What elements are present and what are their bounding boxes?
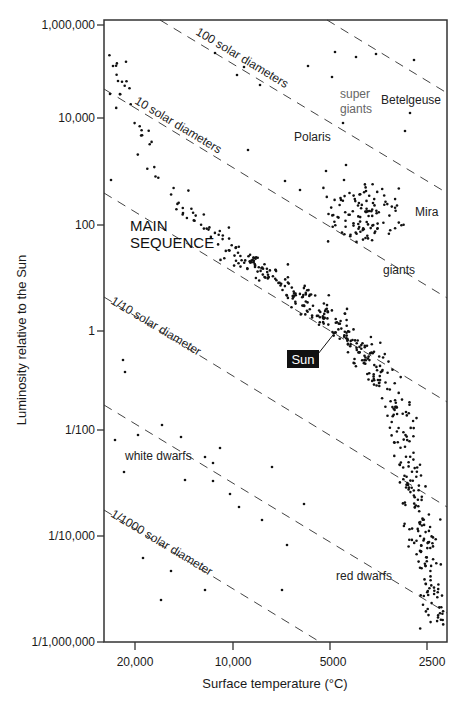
star-point <box>436 591 439 594</box>
star-point <box>336 216 339 219</box>
star-point <box>405 475 408 478</box>
star-point <box>128 87 131 90</box>
star-point <box>394 198 397 201</box>
star-point <box>323 318 326 321</box>
star-point <box>234 247 237 250</box>
star-point <box>140 134 143 137</box>
star-point <box>426 547 429 550</box>
star-point <box>352 210 355 213</box>
star-point <box>355 241 358 244</box>
label-100-solar-diameters: 100 solar diameters <box>193 25 291 91</box>
star-point <box>290 306 293 309</box>
star-point <box>424 565 427 568</box>
star-point <box>383 194 386 197</box>
star-point <box>157 177 160 180</box>
star-point <box>378 382 381 385</box>
star-point <box>407 545 410 548</box>
star-point <box>403 522 406 525</box>
star-point <box>428 513 431 516</box>
star-point <box>186 217 189 220</box>
star-point <box>310 293 313 296</box>
star-point <box>272 275 275 278</box>
star-point <box>384 353 387 356</box>
star-point <box>236 74 239 77</box>
star-point <box>411 470 414 473</box>
star-point <box>347 343 350 346</box>
star-point <box>398 187 401 190</box>
star-point <box>402 502 405 505</box>
star-point <box>230 244 233 247</box>
star-point <box>161 424 164 427</box>
star-point <box>397 441 400 444</box>
star-point <box>323 313 326 316</box>
star-point <box>440 619 443 622</box>
star-point <box>203 213 206 216</box>
star-point <box>271 466 274 469</box>
star-point <box>326 304 329 307</box>
star-point <box>393 382 396 385</box>
star-point <box>381 397 384 400</box>
star-point <box>391 406 394 409</box>
star-point <box>390 421 393 424</box>
star-point <box>146 167 149 170</box>
star-point <box>346 339 349 342</box>
star-point <box>238 245 241 248</box>
star-point <box>390 434 393 437</box>
star-point <box>355 232 358 235</box>
star-point <box>365 221 368 224</box>
star-point <box>400 224 403 227</box>
star-point <box>123 471 126 474</box>
star-point <box>364 346 367 349</box>
label-main: MAIN <box>130 217 168 234</box>
y-tick-1e-6: 1/1,000,000 <box>32 635 96 649</box>
star-point <box>361 342 364 345</box>
star-point <box>394 207 397 210</box>
star-point <box>441 594 444 597</box>
star-point <box>441 613 444 616</box>
star-point <box>384 381 387 384</box>
star-point <box>394 227 397 230</box>
star-point <box>379 341 382 344</box>
star-point <box>404 130 407 133</box>
star-point <box>341 231 344 234</box>
star-point <box>140 129 143 132</box>
star-point <box>415 417 418 420</box>
star-point <box>399 446 402 449</box>
star-point <box>422 539 425 542</box>
star-point <box>418 521 421 524</box>
star-point <box>355 346 358 349</box>
star-point <box>115 107 118 110</box>
star-point <box>204 456 207 459</box>
star-point <box>182 207 185 210</box>
star-point <box>405 411 408 414</box>
star-point <box>325 170 328 173</box>
star-point <box>175 208 178 211</box>
star-point <box>413 467 416 470</box>
star-point <box>406 414 409 417</box>
star-point <box>364 186 367 189</box>
star-point <box>408 401 411 404</box>
star-point <box>122 359 125 362</box>
star-point <box>368 359 371 362</box>
star-point <box>287 276 290 279</box>
star-point <box>408 486 411 489</box>
star-point <box>413 502 416 505</box>
star-point <box>409 112 412 115</box>
star-point <box>361 359 364 362</box>
star-point <box>112 65 115 68</box>
star-point <box>357 204 360 207</box>
star-point <box>417 530 420 533</box>
star-point <box>399 481 402 484</box>
hr-diagram: 1,000,000 10,000 100 1 1/100 1/10,000 1/… <box>0 0 464 704</box>
star-point <box>423 578 426 581</box>
star-point <box>348 192 351 195</box>
star-point <box>429 575 432 578</box>
star-point <box>436 596 439 599</box>
star-point <box>408 440 411 443</box>
star-point <box>221 238 224 241</box>
star-point <box>409 427 412 430</box>
star-point <box>398 221 401 224</box>
star-point <box>160 599 163 602</box>
star-point <box>409 456 412 459</box>
star-point <box>369 352 372 355</box>
